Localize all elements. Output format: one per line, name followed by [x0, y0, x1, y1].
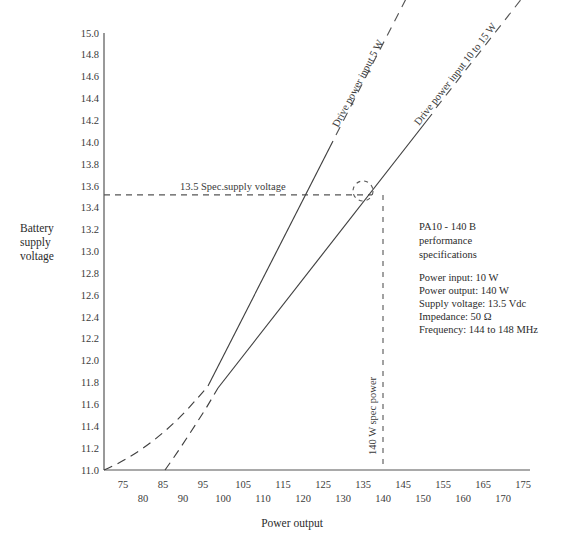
y-tick: 13.4: [81, 202, 100, 213]
x-tick: 75: [118, 479, 129, 490]
y-tick-labels: 11.0 11.2 11.4 11.6 11.8 12.0 12.2 12.4 …: [81, 28, 100, 476]
y-tick: 14.8: [81, 49, 99, 60]
x-tick: 80: [138, 493, 149, 504]
y-tick: 14.0: [81, 137, 99, 148]
y-tick: 12.4: [81, 312, 100, 323]
spec-box: PA10 - 140 B performance specifications …: [419, 221, 538, 335]
x-tick: 85: [158, 479, 169, 490]
x-tick: 160: [455, 493, 471, 504]
x-tick: 165: [475, 479, 491, 490]
curve-10-15w-dashed-low: [165, 388, 218, 470]
spec-power-label: 140 W spec power: [367, 376, 378, 455]
curve-10-15w: [165, 0, 530, 470]
x-tick-labels-lower: 80 90 100 110 120 130 140 150 160 170: [138, 493, 511, 504]
y-tick: 11.2: [81, 443, 99, 454]
curve-label-5w: Drive power input 5 W: [330, 38, 385, 129]
x-tick: 145: [395, 479, 411, 490]
y-tick: 14.2: [81, 115, 99, 126]
spec-box-item: Supply voltage: 13.5 Vdc: [419, 298, 526, 309]
spec-box-title-line: performance: [419, 235, 472, 246]
spec-box-item: Power input: 10 W: [419, 272, 499, 283]
spec-box-title-line: PA10 - 140 B: [419, 221, 476, 232]
y-axis-title-line: Battery: [20, 222, 54, 235]
curve-5w-solid: [208, 141, 333, 386]
y-tick: 11.8: [81, 377, 99, 388]
y-tick: 13.0: [81, 246, 99, 257]
spec-box-title-line: specifications: [419, 249, 477, 260]
y-tick: 11.0: [81, 465, 99, 476]
x-tick: 130: [335, 493, 351, 504]
x-tick: 90: [178, 493, 189, 504]
curve-label-10-15w: Drive power input 10 to 15 W: [412, 21, 499, 127]
x-tick: 125: [315, 479, 331, 490]
x-tick: 95: [198, 479, 209, 490]
x-tick: 135: [355, 479, 371, 490]
x-tick: 110: [255, 493, 270, 504]
x-tick: 170: [495, 493, 511, 504]
y-tick: 12.0: [81, 355, 99, 366]
y-tick: 12.6: [81, 290, 99, 301]
y-tick: 11.6: [81, 399, 99, 410]
intersection-highlight-circle: [353, 181, 373, 201]
chart-svg: 11.0 11.2 11.4 11.6 11.8 12.0 12.2 12.4 …: [0, 0, 575, 553]
y-axis-title-line: supply: [20, 236, 51, 249]
x-tick: 115: [275, 479, 290, 490]
x-tick: 120: [295, 493, 311, 504]
curve-5w-dashed-low: [104, 386, 208, 470]
curve-10-15w-solid: [218, 114, 432, 388]
y-tick: 15.0: [81, 28, 99, 39]
y-axis-title: Battery supply voltage: [20, 222, 54, 263]
x-tick: 175: [515, 479, 531, 490]
y-tick: 14.6: [81, 71, 99, 82]
spec-box-item: Frequency: 144 to 148 MHz: [419, 324, 538, 335]
y-axis-title-line: voltage: [20, 250, 54, 263]
y-tick: 11.4: [81, 421, 100, 432]
y-tick: 13.6: [81, 181, 99, 192]
spec-supply-voltage-label: 13.5 Spec.supply voltage: [180, 181, 286, 192]
curve-10-15w-dashed-high: [436, 0, 530, 108]
x-tick: 140: [375, 493, 391, 504]
y-tick: 12.2: [81, 333, 99, 344]
x-axis-title: Power output: [261, 517, 323, 530]
x-tick: 155: [435, 479, 451, 490]
figure-container: 11.0 11.2 11.4 11.6 11.8 12.0 12.2 12.4 …: [0, 0, 575, 553]
y-tick: 13.2: [81, 224, 99, 235]
y-tick: 12.8: [81, 268, 99, 279]
x-tick: 100: [215, 493, 231, 504]
spec-box-item: Power output: 140 W: [419, 285, 509, 296]
x-tick: 150: [415, 493, 431, 504]
y-tick: 14.4: [81, 93, 100, 104]
x-tick: 105: [235, 479, 251, 490]
y-tick: 13.8: [81, 159, 99, 170]
spec-box-item: Impedance: 50 Ω: [419, 311, 492, 322]
x-tick-labels-upper: 75 85 95 105 115 125 135 145 155 165 175: [118, 479, 531, 490]
